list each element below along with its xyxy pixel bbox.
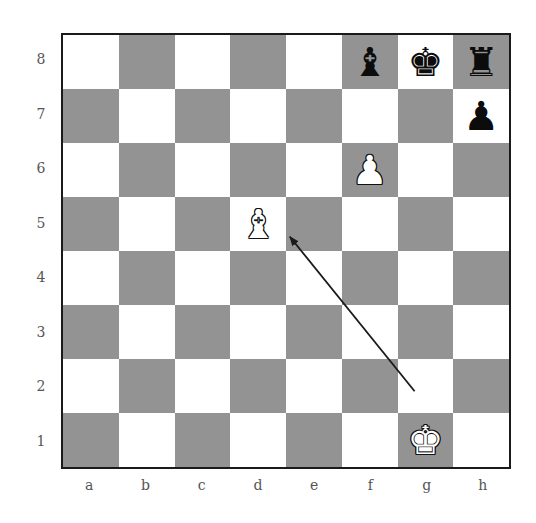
square-h4: [453, 251, 509, 305]
square-g7: [398, 89, 454, 143]
rank-label-4: 4: [34, 269, 48, 285]
square-a5: [63, 197, 119, 251]
square-a4: [63, 251, 119, 305]
square-f2: [342, 359, 398, 413]
square-c8: [175, 35, 231, 89]
square-h5: [453, 197, 509, 251]
file-label-h: h: [473, 477, 493, 493]
square-c1: [175, 413, 231, 467]
square-d5: ♝: [230, 197, 286, 251]
square-h1: [453, 413, 509, 467]
file-label-a: a: [79, 477, 99, 493]
square-e7: [286, 89, 342, 143]
square-g5: [398, 197, 454, 251]
square-a8: [63, 35, 119, 89]
square-b5: [119, 197, 175, 251]
square-a7: [63, 89, 119, 143]
rank-label-8: 8: [34, 51, 48, 67]
square-b7: [119, 89, 175, 143]
square-b6: [119, 143, 175, 197]
square-f3: [342, 305, 398, 359]
square-h3: [453, 305, 509, 359]
square-c7: [175, 89, 231, 143]
file-label-b: b: [135, 477, 155, 493]
square-d1: [230, 413, 286, 467]
black-bishop-icon: ♝: [352, 42, 388, 82]
white-king-icon: ♚: [407, 420, 443, 460]
square-f6: ♟: [342, 143, 398, 197]
square-e4: [286, 251, 342, 305]
square-a6: [63, 143, 119, 197]
file-label-g: g: [417, 477, 437, 493]
rank-label-2: 2: [34, 378, 48, 394]
square-d3: [230, 305, 286, 359]
rank-label-5: 5: [34, 215, 48, 231]
square-c6: [175, 143, 231, 197]
square-b8: [119, 35, 175, 89]
black-king-icon: ♚: [407, 42, 443, 82]
square-a3: [63, 305, 119, 359]
square-g2: [398, 359, 454, 413]
square-f8: ♝: [342, 35, 398, 89]
square-f4: [342, 251, 398, 305]
file-label-e: e: [304, 477, 324, 493]
square-b4: [119, 251, 175, 305]
square-g3: [398, 305, 454, 359]
square-d8: [230, 35, 286, 89]
square-h8: ♜: [453, 35, 509, 89]
square-a2: [63, 359, 119, 413]
square-c4: [175, 251, 231, 305]
square-e3: [286, 305, 342, 359]
file-label-c: c: [192, 477, 212, 493]
square-b3: [119, 305, 175, 359]
chess-board: ♝♚♜♟♟♝♚: [61, 33, 511, 469]
square-e2: [286, 359, 342, 413]
square-f7: [342, 89, 398, 143]
square-d6: [230, 143, 286, 197]
square-h2: [453, 359, 509, 413]
square-g1: ♚: [398, 413, 454, 467]
square-e6: [286, 143, 342, 197]
rank-label-3: 3: [34, 324, 48, 340]
square-g4: [398, 251, 454, 305]
square-c2: [175, 359, 231, 413]
rank-label-7: 7: [34, 106, 48, 122]
square-g6: [398, 143, 454, 197]
file-label-d: d: [248, 477, 268, 493]
square-f5: [342, 197, 398, 251]
file-label-f: f: [360, 477, 380, 493]
square-e8: [286, 35, 342, 89]
square-g8: ♚: [398, 35, 454, 89]
square-c3: [175, 305, 231, 359]
rank-label-1: 1: [34, 433, 48, 449]
white-pawn-icon: ♟: [352, 150, 388, 190]
square-d7: [230, 89, 286, 143]
square-f1: [342, 413, 398, 467]
square-h6: [453, 143, 509, 197]
black-rook-icon: ♜: [463, 42, 499, 82]
square-d4: [230, 251, 286, 305]
square-b1: [119, 413, 175, 467]
square-d2: [230, 359, 286, 413]
square-e5: [286, 197, 342, 251]
square-a1: [63, 413, 119, 467]
square-h7: ♟: [453, 89, 509, 143]
black-pawn-icon: ♟: [463, 96, 499, 136]
square-c5: [175, 197, 231, 251]
rank-label-6: 6: [34, 160, 48, 176]
white-bishop-icon: ♝: [240, 204, 276, 244]
square-e1: [286, 413, 342, 467]
square-b2: [119, 359, 175, 413]
